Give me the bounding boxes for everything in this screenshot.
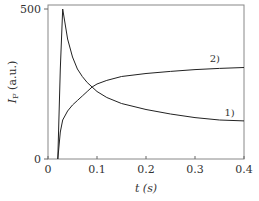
plot-frame — [48, 5, 244, 159]
series-label: 2) — [210, 53, 220, 64]
chart-svg: 00.10.20.30.40500 1)2) t (s) IF (a.u.) — [0, 0, 259, 201]
x-tick-label: 0.1 — [88, 163, 106, 176]
data-lines — [58, 9, 244, 159]
y-tick-label: 500 — [20, 3, 41, 16]
fluorescence-chart: 00.10.20.30.40500 1)2) t (s) IF (a.u.) — [0, 0, 259, 201]
x-tick-label: 0.2 — [137, 163, 155, 176]
x-tick-label: 0.3 — [186, 163, 204, 176]
series-label: 1) — [224, 107, 234, 118]
axis-ticks: 00.10.20.30.40500 — [20, 3, 253, 176]
series-labels: 1)2) — [210, 53, 235, 118]
series-line-1 — [58, 9, 244, 159]
y-tick-label: 0 — [34, 153, 41, 166]
x-tick-label: 0 — [45, 163, 52, 176]
y-axis-label: IF (a.u.) — [6, 61, 20, 105]
x-axis-label: t (s) — [135, 182, 157, 195]
x-tick-label: 0.4 — [235, 163, 253, 176]
